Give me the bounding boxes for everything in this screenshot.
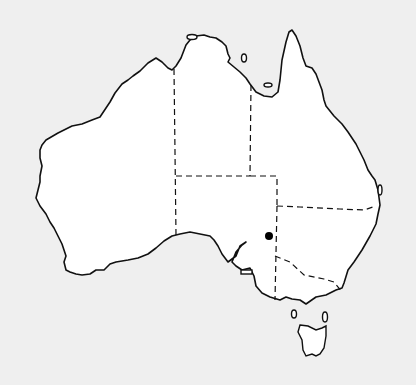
- mornington-island: [264, 83, 272, 87]
- groote-eylandt: [242, 54, 247, 62]
- fraser-island: [378, 185, 382, 195]
- location-marker: [265, 232, 273, 240]
- melville-island: [187, 35, 197, 40]
- mainland-coastline: [36, 30, 380, 304]
- king-island: [292, 310, 297, 318]
- tasmania: [298, 325, 326, 356]
- flinders-island: [323, 312, 328, 322]
- australia-map: [0, 0, 416, 385]
- kangaroo-island: [241, 270, 252, 274]
